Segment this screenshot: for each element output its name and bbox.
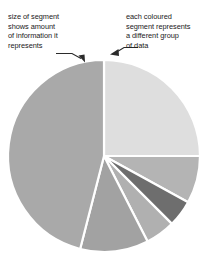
arrow-down-right-icon: [79, 55, 86, 63]
left-annotation-text: size of segment shows amount of informat…: [8, 12, 59, 50]
pie-chart-figure: size of segment shows amount of informat…: [0, 0, 210, 265]
arrow-left-down-icon: [110, 49, 119, 56]
pie-slice-1[interactable]: [104, 60, 200, 156]
right-annotation-text: each coloured segment represents a diffe…: [126, 12, 190, 50]
left-leader-line: [56, 54, 81, 59]
left-callout-pointer: [56, 54, 85, 63]
pie-slices-group: [8, 60, 200, 252]
